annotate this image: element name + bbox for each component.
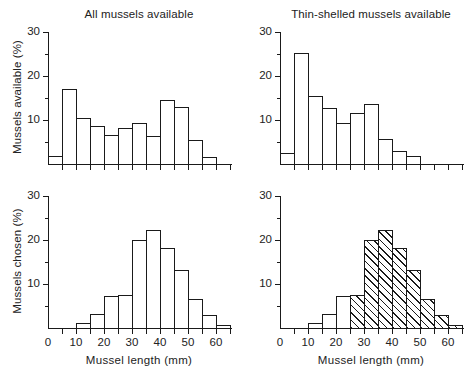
panel-top-left: All mussels availableMussels available (… xyxy=(48,32,230,164)
y-tick-label-top-left-10: 10 xyxy=(14,113,40,125)
x-tick-top-right-60 xyxy=(448,165,449,170)
bar-top-left-55-60 xyxy=(202,157,217,164)
x-tick-bottom-left-30 xyxy=(132,329,133,334)
x-tick-label-bottom-left-50: 50 xyxy=(173,336,203,348)
bar-top-left-50-55 xyxy=(188,140,203,164)
bars-bottom-left xyxy=(48,196,230,328)
bar-bottom-left-35-40 xyxy=(146,230,161,328)
bar-top-right-45-50 xyxy=(406,156,421,164)
x-tick-top-left-35 xyxy=(146,165,147,170)
x-tick-label-bottom-right-20: 20 xyxy=(321,336,351,348)
figure-mussel-size-selection: All mussels availableMussels available (… xyxy=(0,0,464,375)
panel-title-top-left: All mussels available xyxy=(8,8,270,20)
x-tick-top-right-25 xyxy=(350,165,351,170)
y-tick-label-bottom-left-30: 30 xyxy=(14,189,40,201)
x-tick-label-bottom-right-60: 60 xyxy=(433,336,463,348)
bar-bottom-left-10-15 xyxy=(76,323,91,328)
bar-top-right-10-15 xyxy=(308,96,323,164)
bar-bottom-left-40-45 xyxy=(160,248,175,328)
x-tick-top-right-5 xyxy=(294,165,295,170)
bar-top-right-40-45 xyxy=(392,151,407,164)
bar-top-right-0-5 xyxy=(280,153,295,164)
bars-top-left xyxy=(48,32,230,164)
bar-bottom-right-15-20 xyxy=(322,314,337,329)
bar-bottom-right-60-65 xyxy=(448,325,463,329)
x-tick-top-left-45 xyxy=(174,165,175,170)
x-tick-top-left-55 xyxy=(202,165,203,170)
x-tick-label-bottom-left-40: 40 xyxy=(145,336,175,348)
x-axis-label-bottom-left: Mussel length (mm) xyxy=(28,354,250,366)
y-axis-label-top-left: Mussels available (%) xyxy=(11,24,23,170)
x-tick-bottom-right-40 xyxy=(392,329,393,334)
x-tick-bottom-left-65 xyxy=(230,329,231,334)
x-tick-bottom-left-10 xyxy=(76,329,77,334)
x-tick-top-right-10 xyxy=(308,165,309,170)
bar-bottom-left-55-60 xyxy=(202,315,217,328)
x-tick-bottom-right-20 xyxy=(336,329,337,334)
x-tick-label-bottom-left-10: 10 xyxy=(61,336,91,348)
x-tick-top-left-15 xyxy=(90,165,91,170)
bar-top-right-5-10 xyxy=(294,53,309,164)
y-tick-label-top-right-20: 20 xyxy=(246,69,272,81)
x-tick-top-right-20 xyxy=(336,165,337,170)
x-tick-top-left-50 xyxy=(188,165,189,170)
x-tick-label-bottom-right-10: 10 xyxy=(293,336,323,348)
y-axis-label-bottom-left: Mussels chosen (%) xyxy=(11,188,23,334)
bar-top-left-40-45 xyxy=(160,100,175,164)
bar-top-left-45-50 xyxy=(174,107,189,164)
x-tick-label-bottom-left-60: 60 xyxy=(201,336,231,348)
y-tick-label-top-right-10: 10 xyxy=(246,113,272,125)
bar-bottom-right-30-35 xyxy=(364,240,379,328)
x-tick-top-right-50 xyxy=(420,165,421,170)
x-tick-bottom-left-55 xyxy=(202,329,203,334)
x-tick-bottom-right-15 xyxy=(322,329,323,334)
bars-bottom-right xyxy=(280,196,462,328)
x-tick-top-left-40 xyxy=(160,165,161,170)
x-tick-bottom-left-45 xyxy=(174,329,175,334)
x-tick-top-right-30 xyxy=(364,165,365,170)
bar-top-right-30-35 xyxy=(364,104,379,164)
x-tick-top-left-20 xyxy=(104,165,105,170)
bar-bottom-left-50-55 xyxy=(188,299,203,328)
bar-bottom-right-55-60 xyxy=(434,315,449,328)
bar-bottom-left-20-25 xyxy=(104,296,119,328)
bar-top-right-15-20 xyxy=(322,108,337,164)
y-tick-label-top-left-20: 20 xyxy=(14,69,40,81)
x-axis-label-bottom-right: Mussel length (mm) xyxy=(260,354,464,366)
x-tick-bottom-right-30 xyxy=(364,329,365,334)
bar-bottom-left-45-50 xyxy=(174,270,189,329)
bar-top-right-20-25 xyxy=(336,123,351,164)
y-tick-label-bottom-left-20: 20 xyxy=(14,233,40,245)
bar-bottom-right-40-45 xyxy=(392,248,407,328)
bar-bottom-right-35-40 xyxy=(378,230,393,328)
x-tick-bottom-left-25 xyxy=(118,329,119,334)
x-tick-label-bottom-left-30: 30 xyxy=(117,336,147,348)
x-tick-label-bottom-left-0: 0 xyxy=(33,336,63,348)
bar-top-left-5-10 xyxy=(62,89,77,164)
bar-top-left-0-5 xyxy=(48,156,63,164)
bar-bottom-left-25-30 xyxy=(118,295,133,328)
x-tick-bottom-right-55 xyxy=(434,329,435,334)
x-tick-bottom-left-50 xyxy=(188,329,189,334)
x-tick-top-left-60 xyxy=(216,165,217,170)
bar-bottom-left-15-20 xyxy=(90,314,105,329)
bar-top-left-15-20 xyxy=(90,126,105,164)
bar-top-right-35-40 xyxy=(378,139,393,165)
y-tick-label-bottom-right-20: 20 xyxy=(246,233,272,245)
bar-top-left-20-25 xyxy=(104,135,119,164)
panel-bottom-right: 1020300102030405060Mussel length (mm) xyxy=(280,196,462,328)
x-tick-bottom-left-15 xyxy=(90,329,91,334)
bar-top-left-35-40 xyxy=(146,136,161,164)
x-tick-top-right-15 xyxy=(322,165,323,170)
bar-top-left-30-35 xyxy=(132,123,147,164)
bar-bottom-left-30-35 xyxy=(132,240,147,328)
x-tick-bottom-right-45 xyxy=(406,329,407,334)
bar-bottom-right-10-15 xyxy=(308,323,323,328)
x-tick-bottom-right-25 xyxy=(350,329,351,334)
x-tick-bottom-left-40 xyxy=(160,329,161,334)
x-tick-top-right-65 xyxy=(462,165,463,170)
x-tick-top-left-30 xyxy=(132,165,133,170)
bar-bottom-right-20-25 xyxy=(336,296,351,328)
bar-bottom-right-25-30 xyxy=(350,295,365,328)
x-tick-bottom-right-65 xyxy=(462,329,463,334)
